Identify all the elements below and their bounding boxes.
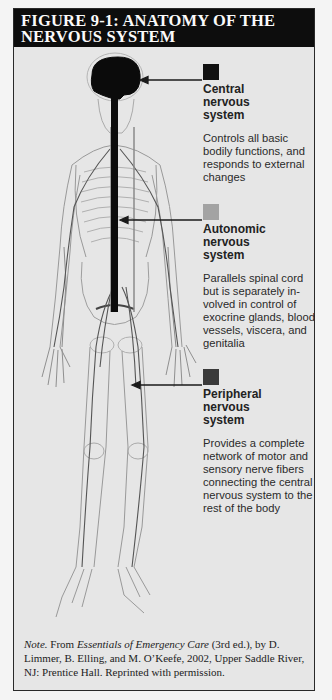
brain-shape xyxy=(91,57,140,99)
legend-name-line: system xyxy=(203,109,315,122)
note-label: Note. xyxy=(24,638,48,650)
legend-name: Peripheral nervous system xyxy=(203,388,315,427)
autonomic-swatch-icon xyxy=(203,204,219,220)
central-swatch-icon xyxy=(203,64,219,80)
legend-description: Controls all basic bodily functions, and… xyxy=(203,132,315,184)
note-book-title: Essentials of Emergency Care xyxy=(77,638,209,650)
legend-entry-autonomic: Autonomic nervous system Parallels spina… xyxy=(203,204,315,350)
legend-entry-central: Central nervous system Controls all basi… xyxy=(203,64,315,184)
legend-name: Autonomic nervous system xyxy=(203,223,315,262)
note-from: From xyxy=(48,638,77,650)
nervous-system-illustration xyxy=(14,47,204,627)
legend-description: Parallels spinal cord but is separately … xyxy=(203,272,315,350)
spinal-cord-shape xyxy=(111,93,118,312)
legend-description: Provides a complete network of motor and… xyxy=(203,437,315,515)
figure-title-line-2: NERVOUS SYSTEM xyxy=(21,29,307,45)
figure-panel: FIGURE 9-1: ANATOMY OF THE NERVOUS SYSTE… xyxy=(13,8,315,691)
legend-name: Central nervous system xyxy=(203,83,315,122)
legend-name-line: system xyxy=(203,414,315,427)
figure-title: FIGURE 9-1: ANATOMY OF THE NERVOUS SYSTE… xyxy=(14,9,314,47)
legend-entry-peripheral: Peripheral nervous system Provides a com… xyxy=(203,369,315,515)
peripheral-swatch-icon xyxy=(203,369,219,385)
legend-name-line: system xyxy=(203,249,315,262)
source-note: Note. From Essentials of Emergency Care … xyxy=(24,637,308,679)
